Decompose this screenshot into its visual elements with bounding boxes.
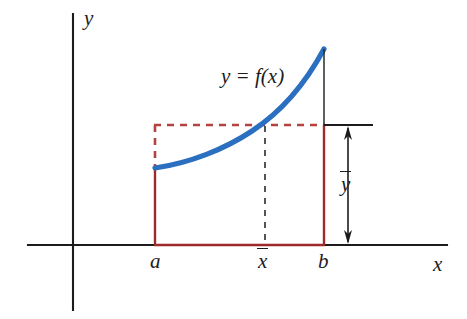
- figure-graphics: [0, 0, 467, 319]
- x-bar-glyph: x: [257, 251, 268, 272]
- figure-canvas: y x y = f(x) a b x y: [0, 0, 467, 319]
- curve-equation-label: y = f(x): [221, 66, 284, 87]
- tick-label-a: a: [150, 251, 161, 272]
- x-axis-label: x: [433, 254, 442, 275]
- tick-label-b: b: [318, 251, 329, 272]
- axes-group: [28, 14, 447, 310]
- y-axis-label: y: [84, 8, 93, 29]
- mean-value-rectangle: [154, 125, 325, 245]
- dimension-label-y-bar: y: [340, 174, 351, 195]
- y-bar-glyph: y: [340, 174, 351, 195]
- tick-label-x-bar: x: [257, 251, 268, 272]
